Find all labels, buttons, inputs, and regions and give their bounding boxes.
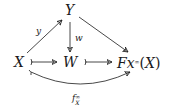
label-f-inf-x: f∞X <box>72 94 81 103</box>
commutative-diagram: Y X W Fx∞(X) y w f∞X <box>0 0 175 111</box>
label-f-supsub: ∞X <box>75 94 81 103</box>
curved-mono-tail <box>29 70 31 75</box>
arrow-x-to-y <box>27 20 62 53</box>
node-f-arg: X <box>145 55 155 71</box>
node-x: X <box>14 55 24 69</box>
label-f-sub: X <box>75 98 79 107</box>
node-w: W <box>63 55 77 69</box>
label-y: y <box>36 27 41 36</box>
arrow-y-to-f <box>79 17 128 52</box>
node-f-base: Fx <box>117 55 135 71</box>
node-f-arg-close: ) <box>155 55 160 71</box>
node-y: Y <box>65 3 74 17</box>
label-w: w <box>75 34 83 43</box>
curved-mono-x-to-f <box>31 72 130 84</box>
node-f: Fx∞(X) <box>117 55 161 70</box>
